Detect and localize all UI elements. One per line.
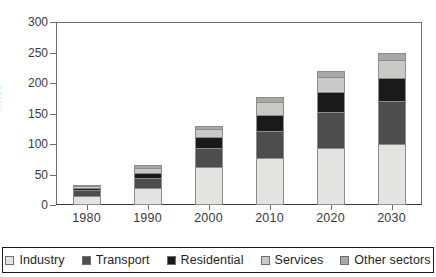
- bar-segment-transport[interactable]: [134, 178, 162, 188]
- bar-segment-residential[interactable]: [256, 115, 284, 131]
- plot-area: [56, 22, 422, 205]
- chart-legend: IndustryTransportResidentialServicesOthe…: [2, 247, 434, 273]
- legend-transport[interactable]: Transport: [82, 253, 150, 267]
- x-tick: [87, 205, 88, 210]
- bar-segment-services[interactable]: [256, 102, 284, 115]
- bar-segment-other-sectors[interactable]: [378, 53, 406, 60]
- bar-segment-residential[interactable]: [195, 137, 223, 148]
- legend-label: Residential: [181, 253, 244, 267]
- bar-2020[interactable]: [317, 71, 345, 205]
- bar-1980[interactable]: [73, 185, 101, 205]
- y-axis-title: Mtoe: [0, 84, 2, 110]
- legend-services[interactable]: Services: [261, 253, 324, 267]
- x-tick: [331, 205, 332, 210]
- x-tick: [392, 205, 393, 210]
- bar-segment-industry[interactable]: [195, 167, 223, 205]
- bar-segment-transport[interactable]: [317, 112, 345, 148]
- legend-swatch-icon: [340, 256, 349, 265]
- bar-segment-residential[interactable]: [378, 78, 406, 101]
- bar-segment-services[interactable]: [317, 77, 345, 92]
- y-tick-label: 300: [4, 16, 48, 28]
- legend-label: Other sectors: [354, 253, 430, 267]
- y-tick: [50, 205, 56, 206]
- legend-swatch-icon: [5, 256, 14, 265]
- bar-segment-transport[interactable]: [195, 148, 223, 167]
- bar-segment-services[interactable]: [378, 60, 406, 78]
- bar-2030[interactable]: [378, 53, 406, 205]
- y-tick-label: 250: [4, 47, 48, 59]
- y-tick-label: 100: [4, 138, 48, 150]
- legend-industry[interactable]: Industry: [5, 253, 64, 267]
- y-tick-label: 150: [4, 108, 48, 120]
- bar-segment-industry[interactable]: [317, 148, 345, 205]
- y-tick-label: 0: [4, 199, 48, 211]
- x-tick: [270, 205, 271, 210]
- legend-swatch-icon: [82, 256, 91, 265]
- y-tick-label: 50: [4, 169, 48, 181]
- bar-segment-services[interactable]: [195, 129, 223, 137]
- bar-segment-industry[interactable]: [256, 158, 284, 205]
- bar-2000[interactable]: [195, 126, 223, 205]
- legend-residential[interactable]: Residential: [167, 253, 244, 267]
- x-tick: [209, 205, 210, 210]
- bar-segment-industry[interactable]: [134, 188, 162, 205]
- x-tick-label: 1990: [118, 211, 178, 225]
- x-tick-label: 2010: [240, 211, 300, 225]
- bar-segment-transport[interactable]: [378, 101, 406, 144]
- legend-other-sectors[interactable]: Other sectors: [340, 253, 430, 267]
- bar-segment-industry[interactable]: [378, 144, 406, 205]
- chart-root: 050100150200250300 Mtoe 1980199020002010…: [0, 0, 436, 277]
- x-tick: [148, 205, 149, 210]
- bar-segment-residential[interactable]: [317, 92, 345, 112]
- legend-label: Industry: [19, 253, 64, 267]
- legend-swatch-icon: [167, 256, 176, 265]
- x-tick-label: 2000: [179, 211, 239, 225]
- x-tick-label: 2030: [362, 211, 422, 225]
- bar-segment-transport[interactable]: [256, 131, 284, 158]
- legend-swatch-icon: [261, 256, 270, 265]
- x-tick-label: 1980: [57, 211, 117, 225]
- legend-label: Services: [275, 253, 324, 267]
- y-tick-label: 200: [4, 77, 48, 89]
- bar-1990[interactable]: [134, 165, 162, 205]
- x-tick-label: 2020: [301, 211, 361, 225]
- legend-label: Transport: [96, 253, 150, 267]
- bar-2010[interactable]: [256, 97, 284, 205]
- bar-segment-industry[interactable]: [73, 196, 101, 205]
